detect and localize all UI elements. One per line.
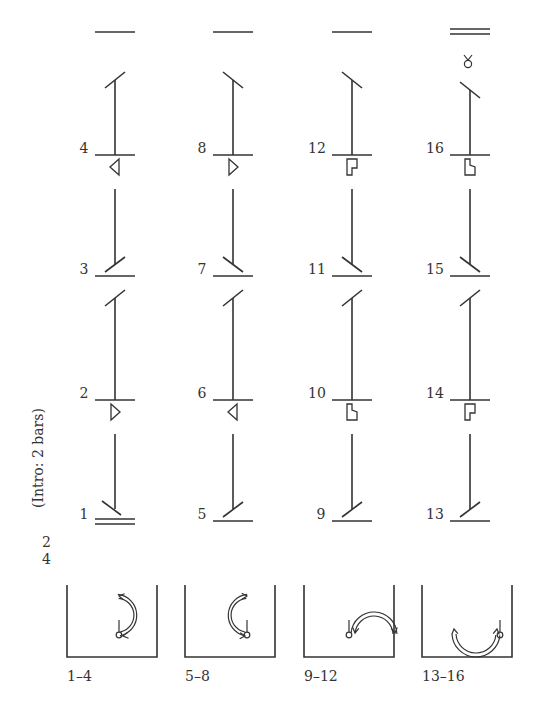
- stage-box: [185, 585, 275, 657]
- pin-icon: [465, 404, 475, 420]
- floor-plan-label: 13–16: [422, 669, 465, 683]
- staff-column-3: [332, 32, 372, 521]
- stage-box: [422, 585, 512, 657]
- bar-number: 8: [198, 141, 207, 155]
- path-arc: [231, 598, 246, 632]
- bar-number: 1: [80, 507, 89, 521]
- floor-plan-label: 9–12: [304, 669, 338, 683]
- hold-sign-icon: [464, 60, 471, 67]
- triangle-right-icon: [229, 159, 238, 175]
- bar-number: 11: [308, 262, 326, 276]
- floor-plan-4: [422, 585, 512, 657]
- performer-pin-icon: [244, 632, 250, 638]
- floor-plan-1: [67, 585, 157, 657]
- intro-label: (Intro: 2 bars): [30, 408, 46, 508]
- path-arc: [119, 598, 134, 632]
- floor-plan-label: 1–4: [67, 669, 92, 683]
- bar-number: 3: [80, 262, 89, 276]
- bar-number: 6: [198, 386, 207, 400]
- support-hook: [102, 501, 121, 515]
- path-arc: [355, 616, 393, 634]
- arrow-head-icon: [493, 629, 499, 635]
- bar-number: 10: [308, 386, 326, 400]
- hold-sign-icon: [464, 55, 472, 60]
- floor-plan-3: [304, 585, 397, 657]
- notation-score: [0, 0, 543, 713]
- meter-top: 2: [42, 535, 51, 549]
- performer-pin-icon: [116, 632, 122, 638]
- bar-number: 13: [426, 507, 444, 521]
- performer-pin-icon: [346, 632, 352, 638]
- bar-number: 14: [426, 386, 444, 400]
- staff-column-2: [213, 32, 253, 521]
- bar-number: 16: [426, 141, 444, 155]
- bar-number: 15: [426, 262, 444, 276]
- bar-number: 2: [80, 386, 89, 400]
- floor-plan-label: 5–8: [185, 669, 210, 683]
- bar-number: 9: [317, 507, 326, 521]
- pin-icon: [347, 404, 357, 420]
- bar-number: 12: [308, 141, 326, 155]
- bar-number: 5: [198, 507, 207, 521]
- staff-column-4: [450, 29, 490, 521]
- pin-icon: [347, 159, 357, 175]
- arrow-head-icon: [452, 629, 458, 635]
- floor-plans: [67, 585, 512, 657]
- floor-plan-2: [185, 585, 275, 657]
- triangle-left-icon: [228, 404, 237, 420]
- path-arc: [456, 634, 496, 653]
- path-arc: [351, 612, 397, 634]
- pin-icon: [465, 159, 475, 175]
- triangle-right-icon: [111, 404, 120, 420]
- meter-bottom: 4: [42, 552, 51, 566]
- bar-number: 4: [80, 141, 89, 155]
- stage-box: [67, 585, 157, 657]
- bar-number: 7: [198, 262, 207, 276]
- staff-column-1: [95, 32, 135, 524]
- triangle-left-icon: [110, 159, 119, 175]
